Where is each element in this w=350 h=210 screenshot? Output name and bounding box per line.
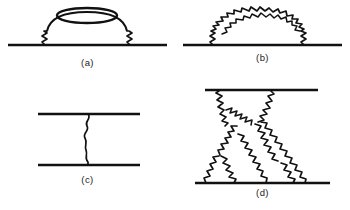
figure-root: (a) (b) (c) (0, 0, 350, 210)
photon-leg-right (127, 31, 132, 45)
panel-caption-a: (a) (0, 57, 175, 68)
diagram-panel-b (175, 0, 350, 78)
photon-exchange (84, 114, 89, 165)
photon-leg-left (42, 31, 47, 45)
photon-exchange-lower-left (204, 156, 219, 183)
photon-exchange-diagonal-center (238, 134, 267, 183)
photon-exchange-middle-left (218, 126, 237, 155)
panel-caption-d: (d) (175, 187, 350, 198)
photon-exchange-center (226, 108, 252, 125)
photon-exchange-lower-left-inner (221, 156, 236, 183)
panel-caption-b: (b) (175, 52, 350, 63)
photon-exchange-upper-left (216, 90, 228, 126)
photon-exchange-lower-right (281, 163, 295, 183)
panel-caption-c: (c) (0, 174, 175, 185)
photon-exchange-upper-right (258, 90, 274, 122)
fermion-loop (57, 8, 117, 23)
photon-arc (47, 12, 127, 31)
outer-photon-arc (210, 7, 306, 45)
diagram-panel-c (0, 100, 175, 205)
